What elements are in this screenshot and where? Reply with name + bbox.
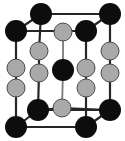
black-atom <box>75 20 97 42</box>
gray-atom <box>7 79 25 97</box>
gray-atom <box>77 59 95 77</box>
black-atom <box>5 116 27 138</box>
black-atom <box>30 3 52 25</box>
gray-atom <box>53 99 71 117</box>
gray-atom <box>77 79 95 97</box>
gray-atom <box>30 42 48 60</box>
lattice-diagram <box>0 0 125 141</box>
gray-atom <box>30 64 48 82</box>
gray-atom <box>101 64 119 82</box>
black-atom <box>27 99 49 121</box>
black-atom <box>99 99 121 121</box>
black-atom <box>75 116 97 138</box>
black-atom <box>52 59 74 81</box>
crystal-lattice-figure <box>0 0 125 141</box>
black-atom <box>99 3 121 25</box>
gray-atom <box>101 42 119 60</box>
gray-atom <box>7 59 25 77</box>
gray-atom <box>54 23 72 41</box>
black-atom <box>5 20 27 42</box>
